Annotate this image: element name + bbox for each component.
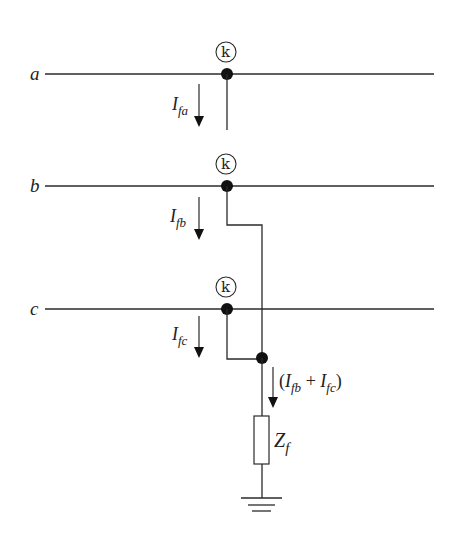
phase-b: b k Ifb <box>30 154 434 358</box>
combined-current-label: (Ifb + Ifc) <box>279 371 342 395</box>
current-label-a: Ifa <box>171 94 189 118</box>
phase-b-fault-lead <box>227 186 262 358</box>
phase-c-label: c <box>30 298 39 319</box>
current-label-b: Ifb <box>169 206 187 230</box>
phase-c: c k Ifc <box>30 277 434 359</box>
arrow-down-icon <box>268 397 278 408</box>
fault-marker-b-label: k <box>221 155 231 173</box>
phase-a: a k Ifa <box>30 42 434 130</box>
arrow-down-icon <box>194 347 204 358</box>
phase-b-label: b <box>30 175 40 196</box>
ground-icon <box>241 498 282 511</box>
fault-impedance-label: Zf <box>274 429 291 456</box>
fault-path: (Ifb + Ifc) Zf <box>241 352 342 511</box>
arrow-down-icon <box>194 229 204 240</box>
phase-c-fault-lead <box>227 309 262 359</box>
fault-marker-c-label: k <box>221 278 231 296</box>
phase-a-label: a <box>30 63 40 84</box>
arrow-down-icon <box>194 116 204 127</box>
fault-circuit-diagram: a k Ifa b k Ifb c k Ifc <box>0 0 461 543</box>
fault-marker-a-label: k <box>221 43 231 61</box>
current-label-c: Ifc <box>171 324 188 348</box>
fault-impedance-resistor <box>254 416 269 464</box>
